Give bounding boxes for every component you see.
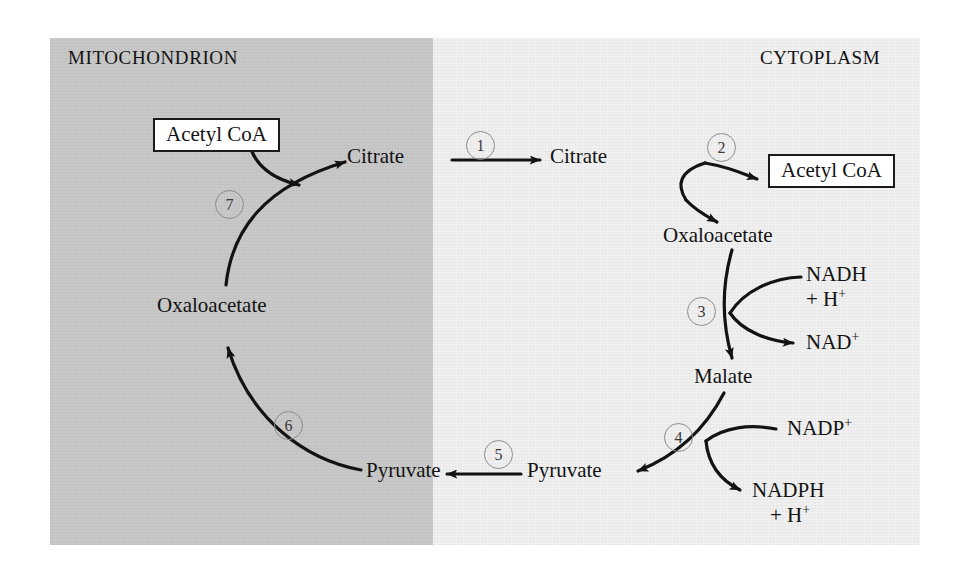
cofactor-nadp-plus-line1: NADP+ [787, 416, 852, 441]
step-badge-5: 5 [484, 440, 513, 469]
compartment-label-cytoplasm: CYTOPLASM [760, 47, 880, 69]
metabolite-malate-cytoplasm: Malate [694, 365, 752, 387]
cofactor-nadp-plus-superscript: + [844, 415, 852, 430]
metabolite-acetyl-coa-mitochondrion: Acetyl CoA [153, 118, 280, 152]
cofactor-nadh-line2-text: + H [806, 287, 838, 311]
cofactor-nadh-line2: + H+ [806, 287, 867, 312]
cofactor-nad-plus-superscript: + [852, 329, 860, 344]
step-badge-4: 4 [664, 423, 693, 452]
cofactor-nadph: NADPH + H+ [752, 478, 824, 528]
cofactor-nadh-line1: NADH [806, 262, 867, 287]
cofactor-nadph-line2: + H+ [752, 503, 824, 528]
diagram-canvas: MITOCHONDRION CYTOPLASM [0, 0, 958, 582]
cofactor-nadph-line1: NADPH [752, 478, 824, 503]
step-badge-1: 1 [466, 131, 495, 160]
step-badge-7: 7 [215, 190, 244, 219]
metabolite-acetyl-coa-cytoplasm: Acetyl CoA [768, 154, 895, 188]
cofactor-nadph-line2-text: + H [770, 503, 802, 527]
metabolite-pyruvate-mitochondrion: Pyruvate [366, 459, 441, 481]
cofactor-nadp-plus-text: NADP [787, 416, 844, 440]
metabolite-citrate-mitochondrion: Citrate [347, 145, 404, 167]
compartment-label-mitochondrion: MITOCHONDRION [68, 47, 238, 69]
step-badge-6: 6 [274, 411, 303, 440]
step-badge-2: 2 [707, 133, 736, 162]
cofactor-nad-plus-line1: NAD+ [806, 330, 859, 355]
metabolite-oxaloacetate-cytoplasm: Oxaloacetate [663, 224, 773, 246]
cofactor-nad-plus-text: NAD [806, 330, 852, 354]
metabolite-citrate-cytoplasm: Citrate [550, 145, 607, 167]
diagram-frame [50, 38, 920, 545]
step-badge-3: 3 [687, 297, 716, 326]
cofactor-nadph-line2-superscript: + [802, 502, 810, 517]
cofactor-nadh-line2-superscript: + [838, 286, 846, 301]
cofactor-nadp-plus: NADP+ [787, 416, 852, 441]
cofactor-nad-plus: NAD+ [806, 330, 859, 355]
cofactor-nadh: NADH + H+ [806, 262, 867, 312]
metabolite-pyruvate-cytoplasm: Pyruvate [527, 459, 602, 481]
metabolite-oxaloacetate-mitochondrion: Oxaloacetate [157, 294, 267, 316]
